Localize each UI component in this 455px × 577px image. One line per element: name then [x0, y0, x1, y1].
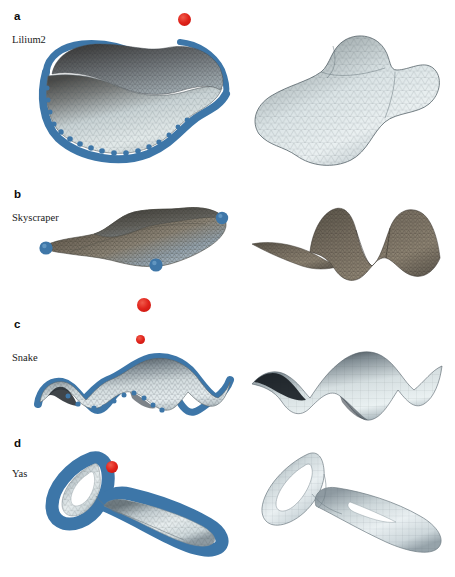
- skyscraper-input-mesh: [34, 194, 234, 294]
- panel-d-letter: d: [14, 437, 21, 449]
- lilium2-result-mesh: [245, 26, 445, 176]
- lilium2-input-mesh: [30, 32, 230, 172]
- panel-b-letter: b: [14, 188, 21, 200]
- panel-c-letter: c: [14, 318, 20, 330]
- marker-c-2: [136, 335, 145, 344]
- marker-c-1: [137, 298, 151, 312]
- panel-a: a Lilium2: [0, 0, 455, 180]
- figure-canvas: a Lilium2: [0, 0, 455, 577]
- marker-a-1: [178, 13, 191, 26]
- panel-d: d Yas: [0, 432, 455, 577]
- panel-c: c Snake: [0, 300, 455, 432]
- panel-d-name: Yas: [12, 468, 27, 479]
- snake-result-mesh: [248, 342, 448, 428]
- panel-a-letter: a: [14, 10, 20, 22]
- panel-b: b Skyscraper: [0, 180, 455, 300]
- snake-input-mesh: [34, 348, 234, 428]
- yas-result-mesh: [246, 444, 451, 569]
- yas-input-mesh: [26, 444, 236, 569]
- skyscraper-result-mesh: [248, 196, 448, 292]
- marker-d-1: [106, 461, 118, 473]
